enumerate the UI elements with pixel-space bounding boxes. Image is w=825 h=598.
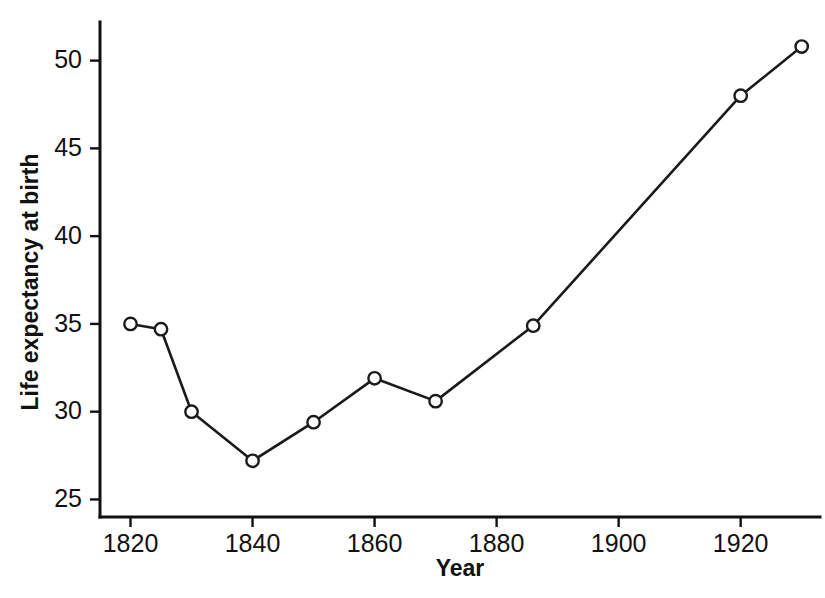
y-tick-label: 35 (54, 309, 82, 337)
line-chart: 253035404550 182018401860188019001920 Ye… (0, 0, 825, 598)
x-tick-label: 1840 (225, 529, 281, 557)
chart-container: 253035404550 182018401860188019001920 Ye… (0, 0, 825, 598)
data-point-marker (124, 318, 136, 330)
y-axis-title: Life expectancy at birth (17, 154, 43, 411)
x-tick-label: 1820 (103, 529, 159, 557)
data-point-markers (124, 40, 808, 467)
x-axis-title: Year (436, 555, 485, 581)
data-point-marker (155, 323, 167, 335)
y-tick-label: 25 (54, 484, 82, 512)
x-tick-label: 1880 (469, 529, 525, 557)
x-axis-ticks: 182018401860188019001920 (103, 517, 769, 557)
data-point-marker (368, 372, 380, 384)
y-tick-label: 40 (54, 221, 82, 249)
data-point-marker (795, 40, 807, 52)
y-tick-label: 30 (54, 396, 82, 424)
y-tick-label: 50 (54, 45, 82, 73)
data-point-marker (246, 455, 258, 467)
x-tick-label: 1900 (591, 529, 647, 557)
x-tick-label: 1860 (347, 529, 403, 557)
data-point-marker (185, 405, 197, 417)
data-point-marker (734, 90, 746, 102)
data-point-marker (307, 416, 319, 428)
y-axis-ticks: 253035404550 (54, 45, 100, 512)
data-line-series (131, 47, 802, 461)
data-point-marker (527, 319, 539, 331)
x-tick-label: 1920 (713, 529, 769, 557)
data-point-marker (429, 395, 441, 407)
y-tick-label: 45 (54, 133, 82, 161)
